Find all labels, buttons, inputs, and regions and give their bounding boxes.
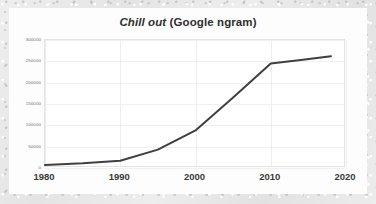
plot-area	[44, 39, 345, 167]
chart-title-term: Chill out	[119, 16, 166, 28]
gridline-y-0	[45, 168, 344, 169]
gridline-x-4	[346, 40, 347, 166]
y-tick-label-250000: 250000	[9, 58, 41, 63]
y-tick-label-200000: 200000	[9, 79, 41, 84]
chart-title-source: (Google ngram)	[166, 16, 256, 28]
y-tick-label-150000: 150000	[9, 101, 41, 106]
figure-frame: Chill out (Google ngram) 050000100000150…	[0, 0, 376, 204]
x-tick-label-2010: 2010	[247, 171, 293, 182]
data-line-chill-out	[45, 40, 346, 168]
x-axis-tick-labels: 19801990200020102020	[9, 171, 367, 191]
series-line-chill-out	[45, 56, 331, 165]
x-tick-label-2000: 2000	[172, 171, 218, 182]
chart-title: Chill out (Google ngram)	[9, 16, 367, 28]
y-tick-label-50000: 50000	[9, 143, 41, 148]
chart-card: Chill out (Google ngram) 050000100000150…	[9, 8, 367, 194]
y-tick-label-100000: 100000	[9, 122, 41, 127]
x-tick-label-1980: 1980	[21, 171, 67, 182]
x-tick-label-2020: 2020	[322, 171, 368, 182]
y-tick-label-0: 0	[9, 165, 41, 170]
y-tick-label-300000: 300000	[9, 37, 41, 42]
x-tick-label-1990: 1990	[96, 171, 142, 182]
